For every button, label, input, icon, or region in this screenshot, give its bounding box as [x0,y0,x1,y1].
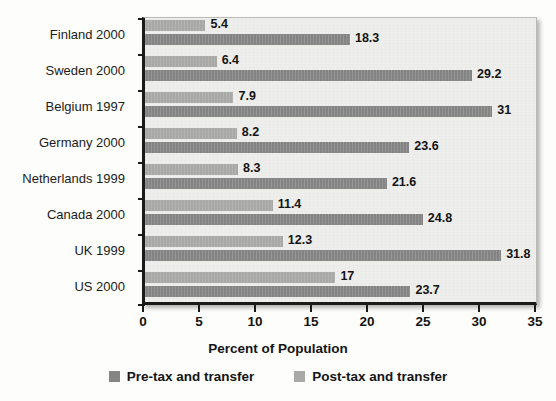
legend-item-post-tax: Post-tax and transfer [294,369,447,384]
bar-texture [145,142,409,153]
bar-pre-tax [145,178,387,189]
bar-post-tax [145,272,335,283]
bar-value-label-pre-tax: 31.8 [506,249,530,260]
x-axis-ticks [142,305,537,313]
x-axis-tick-labels: 05101520253035 [0,314,556,332]
chart-legend: Pre-tax and transfer Post-tax and transf… [0,369,556,384]
bar-value-label-pre-tax: 29.2 [477,69,501,80]
bar-value-label-pre-tax: 24.8 [428,213,452,224]
x-axis-tick [142,305,144,312]
x-axis-tick [422,305,424,312]
x-axis-tick [310,305,312,312]
bar-value-label-post-tax: 11.4 [278,199,302,210]
x-axis-tick-label: 0 [139,314,147,329]
y-axis-tick [138,162,145,164]
bar-value-label-pre-tax: 23.7 [415,285,439,296]
x-axis-tick [198,305,200,312]
legend-label-post-tax: Post-tax and transfer [312,369,447,384]
bar-value-label-pre-tax: 23.6 [414,141,438,152]
bar-post-tax [145,128,237,139]
bar-texture [145,20,205,31]
x-axis-tick-label: 35 [527,314,542,329]
y-axis-tick [138,270,145,272]
bar-texture [145,272,335,283]
x-axis-tick [254,305,256,312]
legend-item-pre-tax: Pre-tax and transfer [109,369,255,384]
bar-texture [145,106,492,117]
bar-value-label-post-tax: 5.4 [210,19,227,30]
bar-group: 7.931 [145,90,536,126]
y-axis-category-label: UK 1999 [0,243,136,258]
bar-texture [145,286,410,297]
bar-texture [145,178,387,189]
bar-pre-tax [145,70,472,81]
bar-pre-tax [145,286,410,297]
bar-pre-tax [145,34,350,45]
bar-post-tax [145,164,238,175]
legend-label-pre-tax: Pre-tax and transfer [127,369,255,384]
x-axis-title: Percent of Population [0,341,556,356]
y-axis-category-label: Finland 2000 [0,27,136,42]
bar-post-tax [145,20,205,31]
y-axis-category-label: US 2000 [0,279,136,294]
bar-value-label-post-tax: 12.3 [288,235,312,246]
bar-texture [145,236,283,247]
legend-swatch-post-tax-icon [294,371,305,382]
y-axis-tick [138,126,145,128]
bar-pre-tax [145,106,492,117]
plot-area: 5.418.36.429.27.9318.223.68.321.611.424.… [142,17,537,305]
bar-pre-tax [145,250,501,261]
bar-texture [145,164,238,175]
x-axis-tick-label: 15 [303,314,318,329]
bar-texture [145,200,273,211]
y-axis-tick [138,198,145,200]
y-axis-category-label: Germany 2000 [0,135,136,150]
bar-texture [145,250,501,261]
bar-post-tax [145,92,233,103]
x-axis-tick-label: 5 [195,314,203,329]
bar-pre-tax [145,142,409,153]
x-axis-tick-label: 10 [247,314,262,329]
x-axis-tick [478,305,480,312]
bar-rows: 5.418.36.429.27.9318.223.68.321.611.424.… [145,18,536,302]
bar-post-tax [145,56,217,67]
bar-value-label-post-tax: 8.3 [243,163,260,174]
x-axis-tick-label: 20 [359,314,374,329]
y-axis-category-label: Netherlands 1999 [0,171,136,186]
bar-group: 6.429.2 [145,54,536,90]
y-axis-tick [138,234,145,236]
y-axis-category-label: Canada 2000 [0,207,136,222]
y-axis-tick [138,90,145,92]
y-axis-tick [138,18,145,20]
bar-post-tax [145,200,273,211]
bar-value-label-post-tax: 6.4 [222,55,239,66]
bar-texture [145,92,233,103]
bar-texture [145,70,472,81]
y-axis-category-label: Belgium 1997 [0,99,136,114]
bar-group: 12.331.8 [145,234,536,270]
bar-pre-tax [145,214,423,225]
bar-value-label-pre-tax: 21.6 [392,177,416,188]
legend-swatch-pre-tax-icon [109,371,120,382]
y-axis-tick [138,54,145,56]
bar-post-tax [145,236,283,247]
bar-texture [145,56,217,67]
x-axis-tick-label: 30 [471,314,486,329]
bar-value-label-post-tax: 7.9 [238,91,255,102]
x-axis-tick [366,305,368,312]
x-axis-tick [534,305,536,312]
chart-figure: Finland 2000Sweden 2000Belgium 1997Germa… [0,0,556,401]
bar-value-label-post-tax: 17 [340,271,354,282]
bar-group: 11.424.8 [145,198,536,234]
bar-texture [145,214,423,225]
bar-group: 8.223.6 [145,126,536,162]
bar-texture [145,128,237,139]
bar-group: 1723.7 [145,270,536,306]
bar-value-label-post-tax: 8.2 [242,127,259,138]
x-axis-tick-label: 25 [415,314,430,329]
bar-group: 8.321.6 [145,162,536,198]
y-axis-category-label: Sweden 2000 [0,63,136,78]
bar-value-label-pre-tax: 31 [497,105,511,116]
bar-group: 5.418.3 [145,18,536,54]
bar-texture [145,34,350,45]
